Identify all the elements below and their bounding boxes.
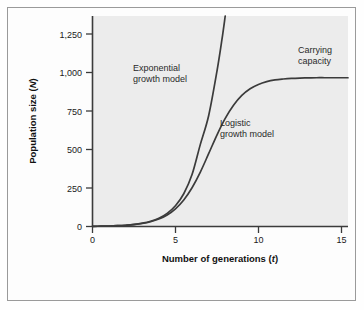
logistic-model-label-line2: growth model [220,129,274,139]
figure-container: 0 250 500 750 1,000 1,250 0 5 10 15 Numb… [0,0,364,310]
x-axis-title-main: Number of generations ( [162,253,273,264]
y-tick-label-1000: 1,000 [59,68,82,78]
exponential-model-label: Exponential growth model [133,63,187,84]
x-axis-title: Number of generations (t) [162,253,278,264]
y-axis-title-tail: ) [27,78,38,81]
y-axis-title-main: Population size ( [27,87,38,163]
y-tick-label-750: 750 [67,107,82,117]
y-tick-label-0: 0 [77,222,82,232]
population-growth-chart: 0 250 500 750 1,000 1,250 0 5 10 15 Numb… [0,0,364,310]
x-tick-label-0: 0 [90,235,95,245]
logistic-model-label-line1: Logistic [220,118,251,128]
exponential-model-label-line1: Exponential [133,63,180,73]
x-tick-label-10: 10 [253,235,263,245]
y-tick-label-1250: 1,250 [59,30,82,40]
x-tick-label-5: 5 [173,235,178,245]
x-tick-label-15: 15 [336,235,346,245]
y-axis-ticks [86,34,92,227]
exponential-model-label-line2: growth model [133,74,187,84]
y-tick-label-500: 500 [67,145,82,155]
y-axis-title: Population size (N) [27,78,38,164]
x-axis-title-tail: ) [275,253,278,264]
carrying-capacity-label-line1: Carrying [298,45,332,55]
y-tick-label-250: 250 [67,184,82,194]
carrying-capacity-label: Carrying capacity [298,45,335,66]
carrying-capacity-label-line2: capacity [298,56,332,66]
